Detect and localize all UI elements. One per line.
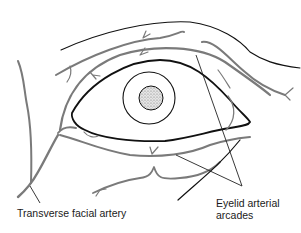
- label-transverse-facial-artery: Transverse facial artery: [17, 207, 126, 219]
- leader-transverse-facial: [30, 186, 40, 203]
- pupil: [139, 86, 163, 110]
- lower-marginal-arcade: [60, 135, 250, 156]
- facial-vessel-branch: [18, 61, 31, 183]
- orbital-contour: [61, 22, 300, 68]
- leader-arcade-upper: [196, 55, 242, 186]
- label-eyelid-arterial-arcades: Eyelid arterial arcades: [216, 197, 280, 221]
- transverse-facial-artery: [18, 135, 58, 197]
- label-eyelid-arterial-arcades-line1: Eyelid arterial: [216, 197, 280, 209]
- leader-arcade-lower: [176, 155, 242, 186]
- upper-peripheral-arcade: [56, 32, 184, 75]
- eyelid-artery-diagram: Transverse facial artery Eyelid arterial…: [0, 0, 301, 233]
- upper-peripheral-arcade-lateral: [202, 42, 285, 95]
- label-eyelid-arterial-arcades-line2: arcades: [216, 209, 280, 221]
